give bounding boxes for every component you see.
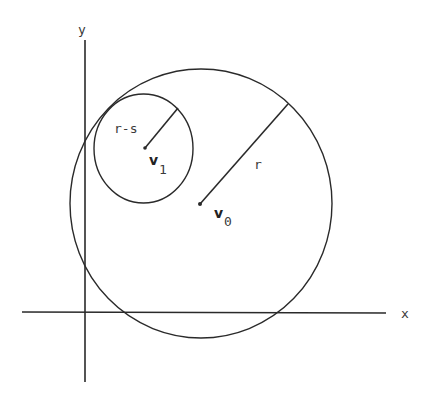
- inner-center-label: v: [149, 152, 158, 168]
- inner-center-point: [143, 146, 147, 150]
- x-axis-label: x: [401, 306, 409, 321]
- y-axis-label: y: [78, 22, 86, 37]
- inner-radius-label: r-s: [114, 121, 137, 136]
- outer-radius-line: [200, 104, 288, 204]
- outer-center-label: v: [214, 205, 223, 221]
- inner-center-subscript: 1: [159, 162, 167, 177]
- outer-radius-label: r: [254, 157, 262, 172]
- x-axis: [22, 312, 386, 313]
- diagram-canvas: x y r v 0 r-s v 1: [0, 0, 428, 397]
- outer-center-point: [198, 202, 202, 206]
- outer-center-subscript: 0: [224, 214, 232, 229]
- inner-radius-line: [145, 108, 178, 148]
